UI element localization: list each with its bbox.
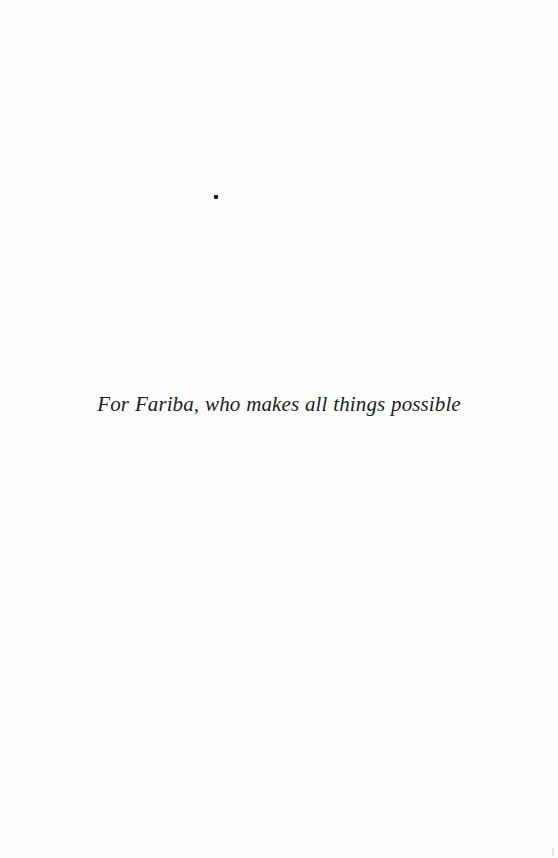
ink-speck [214,195,218,199]
dedication-text: For Fariba, who makes all things possibl… [0,392,558,417]
scan-artifact [552,848,554,856]
book-page: For Fariba, who makes all things possibl… [0,0,558,858]
